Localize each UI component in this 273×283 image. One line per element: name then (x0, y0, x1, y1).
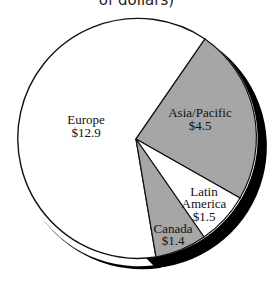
label-canada-value: $1.4 (162, 233, 185, 248)
label-asia-value: $4.5 (189, 118, 212, 133)
pie-chart: Europe $12.9 Asia/Pacific $4.5 Latin Ame… (0, 0, 273, 283)
label-europe-value: $12.9 (71, 125, 100, 140)
label-latin-value: $1.5 (193, 209, 216, 224)
